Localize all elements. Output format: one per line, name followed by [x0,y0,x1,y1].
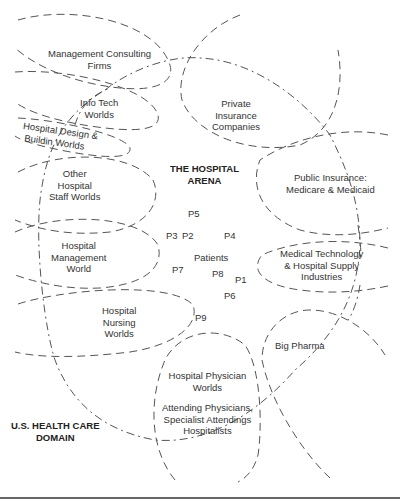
bottom-divider [0,497,400,499]
patient-p8: P8 [212,268,224,280]
patient-p6: P6 [224,290,236,302]
private-insurance-boundary [181,15,340,148]
patient-p3: P3 [166,230,178,242]
patient-p9: P9 [195,312,207,324]
big-pharma-boundary [262,310,385,478]
patients-label: Patients [194,252,228,264]
management-consulting-label: Management Consulting Firms [48,48,151,71]
nursing-label: Hospital Nursing Worlds [102,305,136,340]
patient-p4: P4 [224,230,236,242]
arena-title: THE HOSPITAL ARENA [170,163,239,186]
patient-p5: P5 [188,208,200,220]
private-insurance-label: Private Insurance Companies [212,98,260,133]
big-pharma-label: Big Pharma [275,340,325,352]
physician-label: Hospital Physician Worlds Attending Phys… [162,370,253,437]
domain-title: U.S. HEALTH CARE DOMAIN [11,420,100,443]
patient-p2: P2 [182,230,194,242]
other-staff-label: Other Hospital Staff Worlds [49,168,100,203]
med-tech-label: Medical Technology & Hospital Supply Ind… [280,248,363,283]
patient-p7: P7 [172,264,184,276]
patient-p1: P1 [235,274,247,286]
management-label: Hospital Management World [51,240,106,275]
info-tech-label: Info Tech Worlds [80,97,118,120]
public-insurance-label: Public Insurance: Medicare & Medicaid [286,172,375,195]
